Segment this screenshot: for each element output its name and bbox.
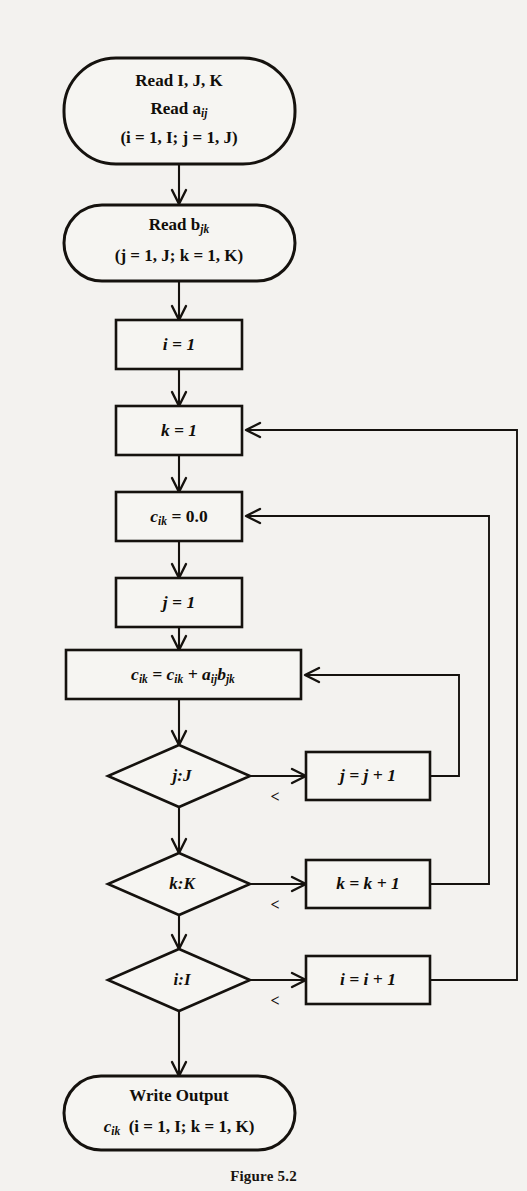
init-j-label: j = 1 — [160, 592, 195, 612]
edge-init-c-to-init-j — [172, 541, 186, 578]
incr-i-label: i = i + 1 — [340, 969, 396, 989]
read-input-line1: Read I, J, K — [135, 71, 223, 90]
node-incr-j: j = j + 1 — [306, 752, 430, 800]
edge-read-input-to-read-b — [172, 164, 186, 204]
node-read-b: Read bjk (j = 1, J; k = 1, K) — [64, 205, 295, 281]
node-test-i: i:I — [108, 949, 250, 1011]
flowchart-canvas: Read I, J, K Read aij (i = 1, I; j = 1, … — [0, 0, 527, 1191]
edge-init-j-to-accumulate — [172, 627, 186, 650]
node-init-i: i = 1 — [116, 320, 242, 369]
read-b-line2: (j = 1, J; k = 1, K) — [115, 246, 243, 265]
test-k-label: k:K — [169, 874, 196, 893]
node-read-input: Read I, J, K Read aij (i = 1, I; j = 1, … — [64, 58, 295, 164]
write-output-line1: Write Output — [129, 1086, 229, 1105]
edge-test-j-to-incr-j — [250, 769, 306, 783]
node-test-j: j:J — [108, 745, 250, 807]
edge-init-k-to-init-c — [172, 455, 186, 492]
node-incr-i: i = i + 1 — [306, 956, 430, 1004]
edge-read-b-to-init-i — [172, 281, 186, 320]
figure-page: Read I, J, K Read aij (i = 1, I; j = 1, … — [0, 0, 527, 1191]
test-k-branch-label: < — [270, 896, 279, 913]
test-j-branch-label: < — [270, 788, 279, 805]
test-i-label: i:I — [174, 970, 192, 989]
read-input-line2: Read aij — [151, 99, 209, 120]
write-output-line2: cik (i = 1, I; k = 1, K) — [104, 1117, 255, 1137]
edge-accumulate-to-test-j — [172, 699, 186, 745]
node-init-j: j = 1 — [116, 578, 242, 627]
node-init-k: k = 1 — [116, 406, 242, 455]
test-i-branch-label: < — [270, 992, 279, 1009]
node-init-c: cik = 0.0 — [116, 492, 242, 541]
node-write-output: Write Output cik (i = 1, I; k = 1, K) — [64, 1076, 295, 1150]
edge-test-j-to-test-k — [172, 807, 186, 853]
node-incr-k: k = k + 1 — [306, 860, 430, 908]
test-j-label: j:J — [170, 766, 192, 785]
edge-test-k-to-incr-k — [250, 877, 306, 891]
init-i-label: i = 1 — [163, 334, 195, 354]
incr-j-label: j = j + 1 — [337, 765, 396, 785]
figure-caption: Figure 5.2 — [0, 1168, 527, 1185]
edge-test-i-to-incr-i — [250, 973, 306, 987]
read-input-line3: (i = 1, I; j = 1, J) — [120, 128, 237, 147]
edge-test-k-to-test-i — [172, 915, 186, 949]
node-accumulate: cik = cik + aijbjk — [66, 650, 301, 699]
init-k-label: k = 1 — [161, 420, 197, 440]
edge-test-i-to-write-output — [172, 1011, 186, 1076]
incr-k-label: k = k + 1 — [336, 873, 400, 893]
edge-init-i-to-init-k — [172, 369, 186, 406]
node-test-k: k:K — [108, 853, 250, 915]
